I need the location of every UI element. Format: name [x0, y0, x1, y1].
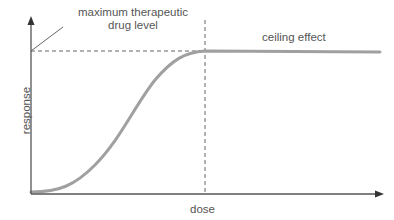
ceiling-effect-label: ceiling effect	[262, 31, 326, 44]
dose-response-diagram	[0, 0, 394, 220]
max-therapeutic-label: maximum therapeutic drug level	[68, 6, 198, 32]
max-label-line2: drug level	[68, 19, 198, 32]
y-axis-label: response	[20, 81, 33, 141]
max-label-line1: maximum therapeutic	[68, 6, 198, 19]
x-axis-label: dose	[190, 203, 215, 216]
x-axis-arrow-icon	[375, 191, 384, 198]
label-leader-line	[31, 27, 63, 51]
y-axis-arrow-icon	[28, 16, 35, 25]
